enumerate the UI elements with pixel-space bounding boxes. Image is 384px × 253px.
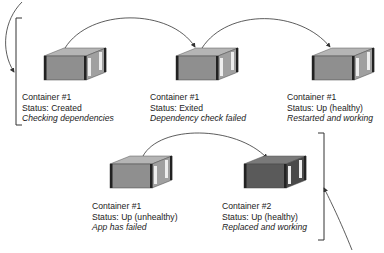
- container-status: Status: Up (healthy): [287, 103, 373, 114]
- exit-arrow: [324, 188, 352, 250]
- right-bracket: [318, 133, 324, 240]
- container-note: Checking dependencies: [22, 113, 114, 124]
- container-label-replaced: Container #2 Status: Up (healthy) Replac…: [222, 201, 307, 233]
- container-status: Status: Exited: [150, 103, 246, 114]
- container-note: Dependency check failed: [150, 113, 246, 124]
- container-note: Restarted and working: [287, 113, 373, 124]
- container-icon: [110, 156, 172, 188]
- container-icon: [244, 156, 306, 188]
- entry-arrow: [6, 2, 22, 72]
- diagram-canvas: [0, 0, 384, 253]
- arrow-created-to-exited: [65, 18, 195, 48]
- container-name: Container #1: [150, 92, 246, 103]
- arrow-unhealthy-to-replaced: [143, 133, 267, 158]
- container-name: Container #1: [287, 92, 373, 103]
- container-name: Container #1: [92, 201, 178, 212]
- container-label-exited: Container #1 Status: Exited Dependency c…: [150, 92, 246, 124]
- container-name: Container #1: [22, 92, 114, 103]
- container-icon: [44, 48, 106, 80]
- container-label-created: Container #1 Status: Created Checking de…: [22, 92, 114, 124]
- container-icon: [312, 48, 374, 80]
- container-icon: [176, 48, 238, 80]
- container-name: Container #2: [222, 201, 307, 212]
- arrow-exited-to-restarted: [202, 19, 330, 48]
- container-label-restarted: Container #1 Status: Up (healthy) Restar…: [287, 92, 373, 124]
- container-status: Status: Up (unhealthy): [92, 212, 178, 223]
- container-label-unhealthy: Container #1 Status: Up (unhealthy) App …: [92, 201, 178, 233]
- container-note: Replaced and working: [222, 222, 307, 233]
- container-note: App has failed: [92, 222, 178, 233]
- container-status: Status: Created: [22, 103, 114, 114]
- container-status: Status: Up (healthy): [222, 212, 307, 223]
